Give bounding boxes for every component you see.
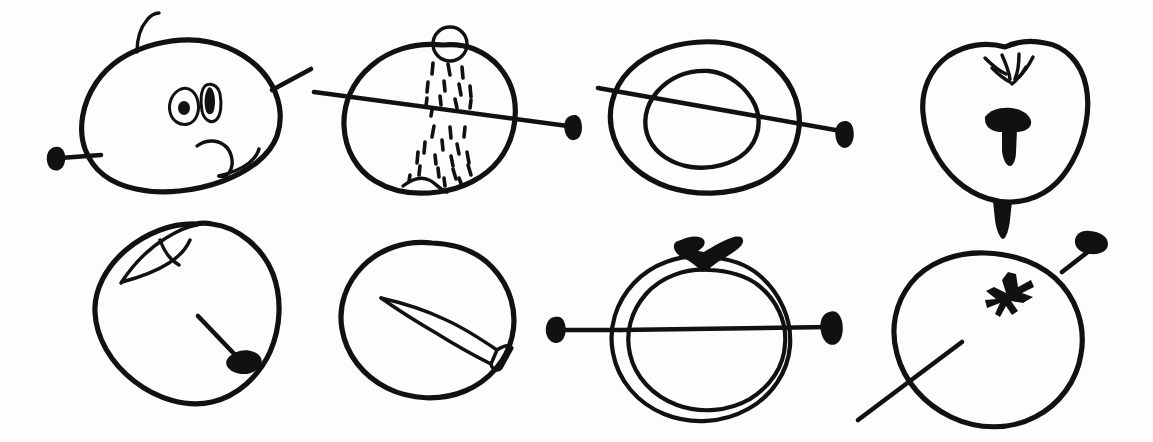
nail-shaft-left-1 xyxy=(60,155,101,158)
nail-shaft-7 xyxy=(620,327,830,330)
seed-pupil-left-1 xyxy=(178,101,190,115)
sketch-canvas xyxy=(0,0,1153,442)
drawing-sheet: Hand-drawn apple sketches with nails xyxy=(0,0,1153,442)
paper-background xyxy=(0,0,1153,442)
